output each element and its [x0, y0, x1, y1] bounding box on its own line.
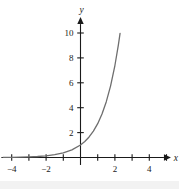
y-tick-label: 8 [69, 53, 74, 63]
x-axis-name: x [173, 153, 179, 163]
exponential-curve [3, 33, 120, 157]
x-tick-label: 4 [147, 164, 152, 174]
axis-name-labels: xy [78, 5, 178, 163]
x-axis-tick-labels: −4−224 [7, 164, 152, 174]
y-axis-tick-labels: 246810 [65, 28, 75, 138]
y-axis-name: y [78, 5, 84, 15]
chart-figure: −4−224 246810 xy [0, 0, 179, 189]
y-tick-label: 4 [69, 103, 74, 113]
exponential-plot: −4−224 246810 xy [0, 0, 179, 189]
x-tick-label: −2 [41, 164, 51, 174]
y-tick-label: 6 [69, 78, 74, 88]
x-tick-label: −4 [7, 164, 17, 174]
y-tick-label: 10 [65, 28, 75, 38]
x-tick-label: 2 [113, 164, 118, 174]
y-tick-label: 2 [69, 128, 74, 138]
curve-path [3, 33, 120, 157]
